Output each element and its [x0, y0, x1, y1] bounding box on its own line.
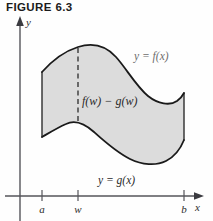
lower-curve-label: y = g(x)	[97, 174, 135, 187]
upper-curve-label: y = f(x)	[133, 50, 169, 63]
tick-label-a: a	[39, 203, 45, 215]
difference-annotation: f(w) − g(w)	[82, 94, 137, 108]
tick-label-w: w	[74, 203, 82, 215]
x-axis-arrowhead	[194, 192, 204, 200]
figure-plot: y x a w b y = f(x) f(w) − g(w) y = g(x)	[0, 0, 213, 221]
y-axis-arrowhead	[16, 16, 24, 26]
figure-container: FIGURE 6.3 y x a w b y = f(x) f	[0, 0, 213, 221]
y-axis-label: y	[25, 16, 31, 28]
tick-label-b: b	[181, 203, 187, 215]
x-axis-label: x	[194, 201, 200, 213]
